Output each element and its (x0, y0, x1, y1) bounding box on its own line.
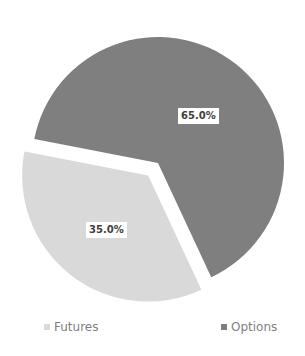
legend-swatch-options (221, 324, 227, 330)
legend-label-futures: Futures (54, 320, 98, 334)
data-label-options: 65.0% (178, 108, 219, 124)
legend-swatch-futures (44, 324, 50, 330)
legend-label-options: Options (231, 320, 277, 334)
legend-item-options[interactable]: Options (221, 320, 277, 334)
pie-chart (0, 0, 305, 356)
legend-item-futures[interactable]: Futures (44, 320, 98, 334)
data-label-futures: 35.0% (86, 222, 127, 238)
